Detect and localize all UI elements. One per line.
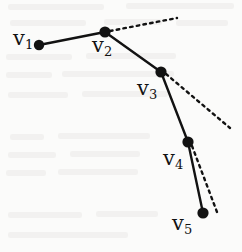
vertex-dot-v3 xyxy=(155,66,166,77)
vertex-label-v1-base: v xyxy=(13,26,25,50)
vertex-dot-v5 xyxy=(197,207,208,218)
vertex-label-v3: v3 xyxy=(137,78,157,101)
vertex-dot-v4 xyxy=(182,136,193,147)
figure-canvas: v1 v2 v3 v4 v5 xyxy=(0,0,242,252)
vertex-label-v3-subscript: 3 xyxy=(149,87,157,102)
vertex-label-v5-base: v xyxy=(172,211,184,235)
vertex-dots xyxy=(34,26,209,218)
vertex-dot-v1 xyxy=(34,40,44,50)
vertex-label-v5: v5 xyxy=(172,213,192,236)
segment-v3-v4 xyxy=(161,72,188,142)
solid-segments xyxy=(39,32,203,213)
vertex-label-v4: v4 xyxy=(163,148,183,171)
dotted-ray-from-v3 xyxy=(166,74,230,128)
dotted-ray-from-v2 xyxy=(110,18,177,31)
segment-v2-v3 xyxy=(105,32,161,72)
vertex-label-v5-subscript: 5 xyxy=(184,222,192,237)
vertex-label-v3-base: v xyxy=(137,76,149,100)
vertex-label-v2-subscript: 2 xyxy=(104,44,112,59)
vertex-label-v2: v2 xyxy=(92,35,112,58)
vertex-label-v4-subscript: 4 xyxy=(175,157,183,172)
vertex-label-v1-subscript: 1 xyxy=(25,37,33,52)
vertex-label-v1: v1 xyxy=(13,28,33,51)
vertex-label-v4-base: v xyxy=(163,146,175,170)
vertex-label-v2-base: v xyxy=(92,33,104,57)
polyline-figure xyxy=(0,0,242,252)
